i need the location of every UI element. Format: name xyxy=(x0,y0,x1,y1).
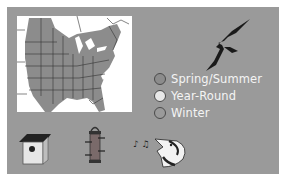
spring-summer-swatch-icon xyxy=(154,73,166,85)
species-range-card: Spring/Summer Year-Round Winter ♪ ♫ xyxy=(7,7,279,174)
range-map-graphic xyxy=(17,16,132,112)
legend-item-year-round: Year-Round xyxy=(154,87,262,104)
legend-label: Spring/Summer xyxy=(171,72,262,86)
svg-text:♪ ♫: ♪ ♫ xyxy=(133,139,150,149)
singing-bird-icon: ♪ ♫ xyxy=(131,133,191,169)
legend-label: Winter xyxy=(171,106,210,120)
range-legend: Spring/Summer Year-Round Winter xyxy=(154,70,262,121)
legend-item-spring-summer: Spring/Summer xyxy=(154,70,262,87)
winter-swatch-icon xyxy=(154,107,166,119)
range-map xyxy=(17,16,132,112)
legend-label: Year-Round xyxy=(171,89,236,103)
birdhouse-icon xyxy=(17,132,53,166)
swallow-silhouette-icon xyxy=(202,17,252,72)
legend-item-winter: Winter xyxy=(154,104,262,121)
year-round-swatch-icon xyxy=(154,90,166,102)
tube-feeder-icon xyxy=(83,125,107,165)
